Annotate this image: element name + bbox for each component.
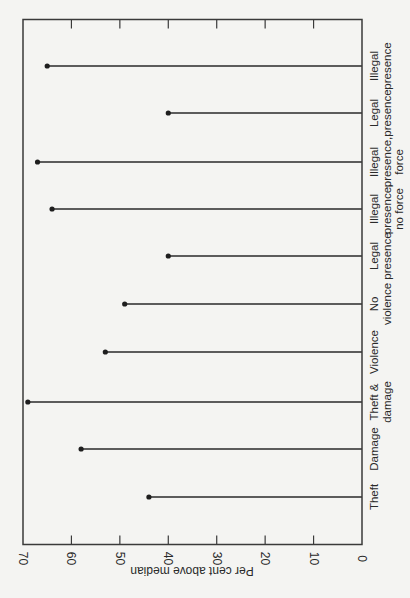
category-label-line: presence bbox=[381, 232, 393, 279]
tick-label: 50 bbox=[113, 552, 127, 566]
value-axis-title: Per cent above median bbox=[130, 564, 253, 578]
tick-label: 60 bbox=[64, 552, 78, 566]
category-label-line: Theft & bbox=[368, 383, 380, 420]
category-label-line: presence bbox=[381, 89, 393, 136]
lollipop-dot bbox=[45, 63, 50, 68]
lollipop-dot bbox=[103, 349, 108, 354]
category-label: Damage bbox=[368, 427, 380, 470]
category-label-line: Illegal bbox=[368, 51, 380, 81]
tick-label: 0 bbox=[355, 555, 369, 562]
category-label-line: Violence bbox=[368, 330, 380, 374]
category-label-line: Legal bbox=[368, 242, 380, 270]
category-label: Legalpresence bbox=[368, 89, 393, 136]
lollipop-chart: 010203040506070 TheftDamageTheft &damage… bbox=[0, 0, 410, 598]
category-label-line: Damage bbox=[368, 427, 380, 470]
value-axis-tick-labels: 010203040506070 bbox=[16, 552, 369, 566]
lollipop-dot bbox=[79, 446, 84, 451]
lollipop-dot bbox=[166, 253, 171, 258]
category-labels: TheftDamageTheft &damageViolenceNoviolen… bbox=[368, 42, 405, 510]
tick-label: 40 bbox=[161, 552, 175, 566]
category-label: Illegalpresence,force bbox=[368, 137, 405, 188]
value-axis-ticks bbox=[71, 20, 313, 545]
category-label-line: presence bbox=[381, 42, 393, 89]
category-label-line: damage bbox=[381, 381, 393, 423]
lollipop-dot bbox=[35, 159, 40, 164]
category-label-line: no force bbox=[393, 188, 405, 230]
data-series bbox=[25, 63, 362, 499]
category-label-line: presence, bbox=[381, 137, 393, 188]
category-label-line: Illegal bbox=[368, 147, 380, 177]
category-label-line: Legal bbox=[368, 99, 380, 127]
tick-label: 30 bbox=[210, 552, 224, 566]
lollipop-dot bbox=[166, 110, 171, 115]
category-label: Theft bbox=[368, 483, 380, 510]
category-label-line: Illegal bbox=[368, 194, 380, 224]
category-label-line: violence bbox=[381, 283, 393, 325]
category-label-line: Theft bbox=[368, 483, 380, 510]
category-label: Legalpresence bbox=[368, 232, 393, 279]
tick-label: 20 bbox=[258, 552, 272, 566]
category-label: Theft &damage bbox=[368, 381, 393, 423]
category-label-line: presence, bbox=[381, 184, 393, 235]
tick-label: 70 bbox=[16, 552, 30, 566]
category-label: Illegalpresence,no force bbox=[368, 184, 405, 235]
category-label: Violence bbox=[368, 330, 380, 374]
category-label: Noviolence bbox=[368, 283, 393, 325]
lollipop-dot bbox=[146, 494, 151, 499]
category-label: Illegalpresence bbox=[368, 42, 393, 89]
plot-frame bbox=[23, 20, 362, 545]
lollipop-dot bbox=[49, 206, 54, 211]
tick-label: 10 bbox=[307, 552, 321, 566]
lollipop-dot bbox=[25, 399, 30, 404]
lollipop-dot bbox=[122, 301, 127, 306]
category-label-line: No bbox=[368, 297, 380, 312]
category-label-line: force bbox=[393, 149, 405, 175]
